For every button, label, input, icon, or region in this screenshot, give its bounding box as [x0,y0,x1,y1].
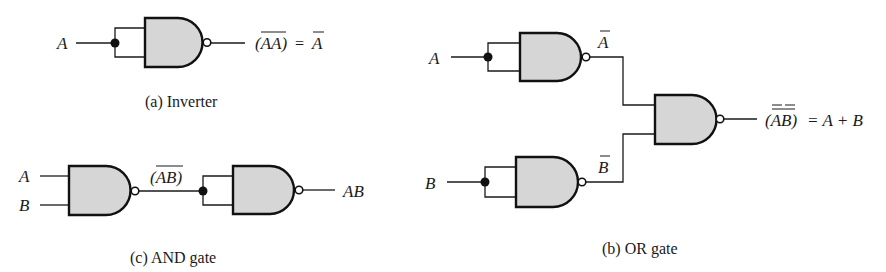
inversion-bubble [578,178,586,186]
inverter-bridge-wire [115,28,145,57]
or-intermediate-a-label: A [597,33,609,52]
inverter-input-label: A [56,34,68,53]
junction-dot [111,39,120,48]
and-input-a-label: A [18,167,30,186]
inverter-caption: (a) Inverter [145,93,218,111]
inversion-bubble [295,186,303,194]
inversion-bubble [131,187,139,195]
or-input-b-label: B [425,174,436,193]
nand-gate-icon [145,18,202,67]
nand-gate-icon [520,33,581,81]
and-bridge-wire [203,176,233,205]
nand-gate-icon [516,157,578,207]
or-output-expr-rhs: = A + B [807,111,863,130]
or-gate-circuit: A A B B (AB) = A + B (b) OR gate [425,31,863,258]
and-input-b-label: B [19,196,30,215]
nand-gate-icon [233,166,294,214]
inverter-output-expr-rhs: A [311,34,323,53]
junction-dot [481,178,490,187]
and-output-label: AB [342,182,364,201]
inversion-bubble [582,53,590,61]
nand-logic-diagram: A (AA) = A (a) Inverter A B (AB) AB (c) … [0,0,886,272]
inverter-circuit: A (AA) = A (a) Inverter [56,18,324,111]
or-bottom-bridge-wire [485,167,516,197]
inversion-bubble [203,39,211,47]
inverter-output-eq: = [295,35,304,52]
or-top-bridge-wire [488,43,520,71]
inversion-bubble [716,115,724,123]
inverter-output-expr-lhs: (AA) [255,34,287,53]
and-caption: (c) AND gate [130,249,216,267]
or-bottom-to-center-wire [586,134,655,182]
or-output-expr-lhs: (AB) [765,111,797,130]
or-top-to-center-wire [590,57,655,105]
and-intermediate-label: (AB) [150,168,182,187]
and-gate-circuit: A B (AB) AB (c) AND gate [18,166,364,267]
junction-dot [199,187,208,196]
or-caption: (b) OR gate [602,240,678,258]
nand-gate-icon [69,166,131,215]
junction-dot [484,53,493,62]
or-intermediate-b-label: B [598,158,609,177]
nand-gate-icon [655,95,717,144]
or-input-a-label: A [428,49,440,68]
